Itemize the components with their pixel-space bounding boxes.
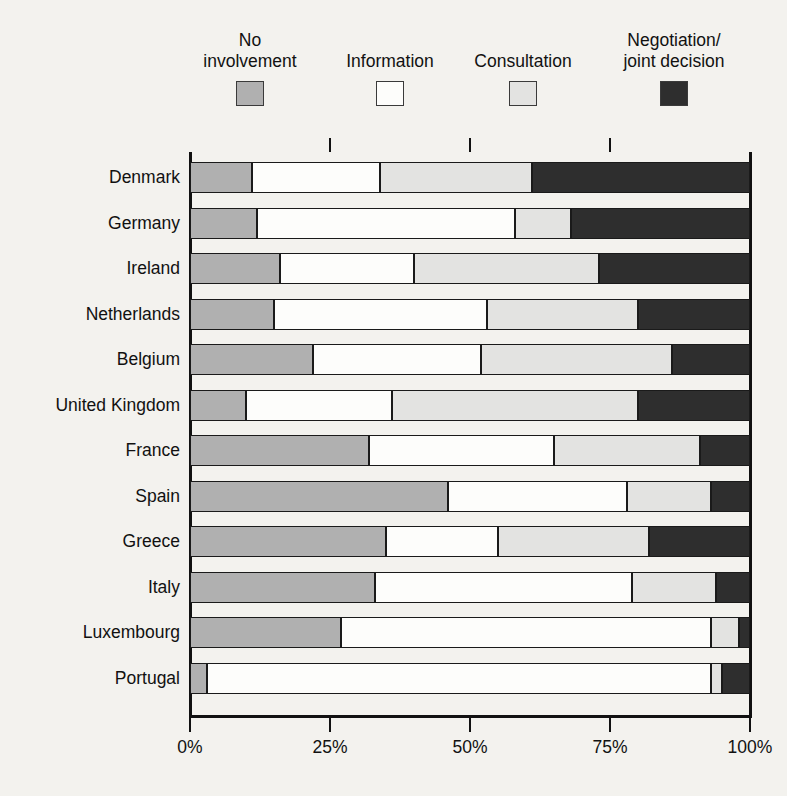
x-axis-tick-label: 75% <box>570 737 650 758</box>
bar-segment-no-involvement <box>190 572 375 603</box>
bar-segment-consultation <box>515 208 571 239</box>
y-axis-label: Belgium <box>0 344 180 375</box>
bar-segment-information <box>313 344 481 375</box>
top-axis-tick <box>469 138 472 152</box>
bar-segment-information <box>448 481 627 512</box>
x-axis: 0%25%50%75%100% <box>190 715 753 775</box>
bar-segment-no-involvement <box>190 663 207 694</box>
bar-segment-consultation <box>392 390 638 421</box>
bar-segment-no-involvement <box>190 617 341 648</box>
y-axis-label: Italy <box>0 572 180 603</box>
bar-segment-consultation <box>414 253 599 284</box>
y-axis-label: Spain <box>0 481 180 512</box>
chart-legend: No involvement Information Consultation … <box>0 30 787 140</box>
y-axis-label: Luxembourg <box>0 617 180 648</box>
bar-segment-negotiation <box>722 663 750 694</box>
bar-row <box>190 162 750 193</box>
bar-segment-information <box>257 208 515 239</box>
bar-segment-consultation <box>481 344 671 375</box>
bar-segment-negotiation <box>571 208 750 239</box>
bar-segment-consultation <box>711 663 722 694</box>
bar-segment-information <box>280 253 414 284</box>
legend-label-information: Information <box>330 51 450 72</box>
bar-segment-no-involvement <box>190 344 313 375</box>
bar-segment-no-involvement <box>190 253 280 284</box>
bar-row <box>190 299 750 330</box>
bar-segment-information <box>375 572 633 603</box>
x-axis-tick-label: 25% <box>290 737 370 758</box>
bar-segment-negotiation <box>638 390 750 421</box>
bar-row <box>190 344 750 375</box>
bar-segment-no-involvement <box>190 435 369 466</box>
x-axis-tick <box>469 715 472 732</box>
bar-segment-consultation <box>711 617 739 648</box>
y-axis-label: Germany <box>0 208 180 239</box>
bar-segment-negotiation <box>700 435 750 466</box>
y-axis-label: France <box>0 435 180 466</box>
legend-swatch-consultation <box>509 81 537 106</box>
bar-row <box>190 390 750 421</box>
legend-item-no-involvement: No involvement <box>186 30 314 106</box>
plot-area: DenmarkGermanyIrelandNetherlandsBelgiumU… <box>190 152 750 712</box>
x-axis-tick-label: 0% <box>150 737 230 758</box>
legend-swatch-no-involvement <box>236 81 264 106</box>
bar-row <box>190 253 750 284</box>
bar-segment-no-involvement <box>190 208 257 239</box>
stacked-bar-chart: No involvement Information Consultation … <box>0 0 787 796</box>
x-axis-tick <box>609 715 612 732</box>
legend-label-negotiation: Negotiation/ joint decision <box>600 30 748 72</box>
bar-row <box>190 663 750 694</box>
bar-segment-no-involvement <box>190 481 448 512</box>
bar-segment-negotiation <box>711 481 750 512</box>
bar-row <box>190 617 750 648</box>
bar-segment-information <box>207 663 711 694</box>
bar-segment-consultation <box>632 572 716 603</box>
bar-segment-information <box>274 299 487 330</box>
bar-segment-negotiation <box>532 162 750 193</box>
bar-row <box>190 435 750 466</box>
bar-segment-no-involvement <box>190 390 246 421</box>
legend-item-negotiation: Negotiation/ joint decision <box>600 30 748 106</box>
bar-segment-negotiation <box>739 617 750 648</box>
bar-row <box>190 572 750 603</box>
legend-item-information: Information <box>330 51 450 106</box>
bar-segment-no-involvement <box>190 162 252 193</box>
legend-label-consultation: Consultation <box>460 51 586 72</box>
bar-segment-consultation <box>498 526 649 557</box>
bar-segment-negotiation <box>672 344 750 375</box>
bar-row <box>190 208 750 239</box>
bar-row <box>190 526 750 557</box>
bar-segment-no-involvement <box>190 299 274 330</box>
x-axis-tick <box>329 715 332 732</box>
top-axis-tick <box>609 138 612 152</box>
bar-segment-information <box>252 162 381 193</box>
top-axis-tick <box>329 138 332 152</box>
legend-swatch-negotiation <box>660 81 688 106</box>
x-axis-tick <box>749 715 752 732</box>
bar-segment-information <box>341 617 711 648</box>
y-axis-label: Portugal <box>0 663 180 694</box>
bar-row <box>190 481 750 512</box>
y-axis-label: Greece <box>0 526 180 557</box>
bar-segment-negotiation <box>649 526 750 557</box>
bar-segment-consultation <box>380 162 531 193</box>
x-axis-tick-label: 100% <box>710 737 787 758</box>
bar-segment-information <box>369 435 554 466</box>
x-axis-tick <box>189 715 192 732</box>
bar-segment-consultation <box>487 299 638 330</box>
y-axis-label: United Kingdom <box>0 390 180 421</box>
y-axis-label: Denmark <box>0 162 180 193</box>
bar-segment-negotiation <box>599 253 750 284</box>
bar-segment-information <box>386 526 498 557</box>
y-axis-label: Ireland <box>0 253 180 284</box>
x-axis-tick-label: 50% <box>430 737 510 758</box>
legend-swatch-information <box>376 81 404 106</box>
bar-segment-no-involvement <box>190 526 386 557</box>
y-axis-label: Netherlands <box>0 299 180 330</box>
bar-segment-negotiation <box>638 299 750 330</box>
bar-segment-consultation <box>627 481 711 512</box>
legend-item-consultation: Consultation <box>460 51 586 106</box>
bar-segment-information <box>246 390 392 421</box>
legend-label-no-involvement: No involvement <box>186 30 314 72</box>
bar-segment-consultation <box>554 435 700 466</box>
